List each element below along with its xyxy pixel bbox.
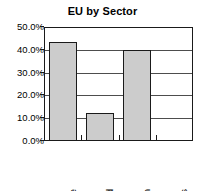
x-axis-label-stores: Stores [179, 189, 189, 191]
y-axis-tick-label: 30.0% [3, 68, 44, 78]
y-axis-tick-label: 40.0% [3, 45, 44, 55]
plot-area [44, 27, 193, 141]
x-axis-label-engin: Engin [142, 189, 152, 191]
y-axis-tick-label: 10.0% [3, 113, 44, 123]
gridline [45, 73, 192, 74]
x-axis-label-textile: Textile [68, 189, 78, 191]
y-axis-tick-label: 20.0% [3, 90, 44, 100]
gridline [45, 95, 192, 96]
y-axis: 0.0%10.0%20.0%30.0%40.0%50.0% [0, 27, 44, 141]
x-axis-labels: TextileFoodEnginStores [44, 143, 193, 191]
gridline [45, 50, 192, 51]
chart-title: EU by Sector [0, 5, 205, 18]
gridline [45, 118, 192, 119]
x-axis-label-food: Food [105, 189, 115, 191]
chart-container: EU by Sector 0.0%10.0%20.0%30.0%40.0%50.… [0, 0, 205, 191]
y-axis-tick-label: 0.0% [3, 136, 44, 146]
y-axis-tick-label: 50.0% [3, 22, 44, 32]
